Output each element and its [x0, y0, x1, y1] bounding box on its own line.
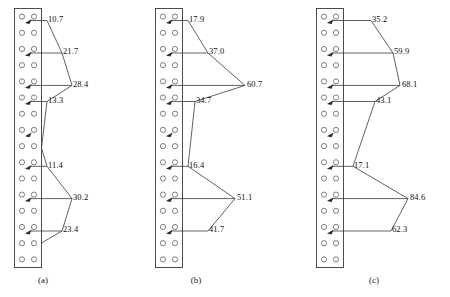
caption-panel-b: (b) — [176, 275, 216, 285]
value-label-c-1: 59.9 — [394, 46, 409, 56]
panel-c-frame — [317, 9, 344, 268]
value-label-a-3: 13.3 — [48, 95, 63, 105]
value-label-a-0: 10.7 — [48, 14, 63, 24]
value-label-b-5: 51.1 — [237, 192, 252, 202]
value-label-b-0: 17.9 — [189, 14, 204, 24]
panel-a-frame — [15, 9, 42, 268]
figure-container: 10.7 21.7 28.4 13.3 11.4 30.2 23.4 17.9 … — [0, 0, 450, 297]
value-label-b-4: 16.4 — [189, 160, 204, 170]
panel-b-group — [156, 9, 246, 268]
value-label-c-3: 43.1 — [376, 95, 391, 105]
value-label-b-6: 41.7 — [209, 224, 224, 234]
value-label-b-2: 60.7 — [247, 79, 262, 89]
value-label-a-6: 23.4 — [63, 224, 78, 234]
value-label-c-0: 35.2 — [372, 14, 387, 24]
value-label-b-1: 37.0 — [209, 46, 224, 56]
value-label-c-6: 62.3 — [392, 224, 407, 234]
value-label-a-2: 28.4 — [73, 79, 88, 89]
value-label-c-5: 84.6 — [410, 192, 425, 202]
value-label-c-4: 17.1 — [354, 160, 369, 170]
caption-panel-a: (a) — [23, 275, 63, 285]
figure-svg — [0, 0, 450, 297]
value-label-a-1: 21.7 — [63, 46, 78, 56]
value-label-a-4: 11.4 — [48, 160, 63, 170]
value-label-c-2: 68.1 — [402, 79, 417, 89]
value-label-b-3: 34.7 — [196, 95, 211, 105]
value-label-a-5: 30.2 — [73, 192, 88, 202]
panel-b-frame — [156, 9, 183, 268]
caption-panel-c: (c) — [354, 275, 394, 285]
